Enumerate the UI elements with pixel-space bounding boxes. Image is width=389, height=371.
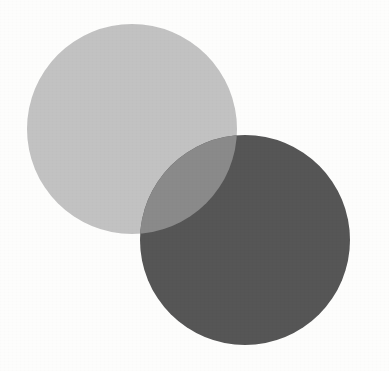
figure-canvas [0, 0, 389, 371]
venn-diagram [0, 0, 389, 371]
